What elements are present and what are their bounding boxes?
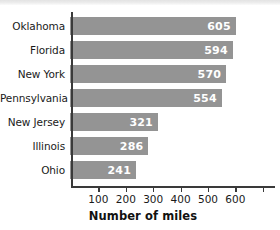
bar-track: 321	[70, 110, 280, 134]
bar-track: 570	[70, 62, 280, 86]
category-label: Ohio	[0, 164, 70, 176]
category-label: Pennsylvania	[0, 92, 70, 104]
x-axis-tick	[181, 187, 182, 192]
x-axis-tick	[98, 187, 99, 192]
category-label: New York	[0, 68, 70, 80]
bar-track: 286	[70, 134, 280, 158]
bar-value-label: 286	[120, 140, 149, 153]
bar-track: 605	[70, 14, 280, 38]
bar: 241	[70, 161, 136, 179]
y-axis-line	[71, 12, 73, 187]
bar-value-label: 321	[129, 116, 158, 129]
x-axis-line	[71, 186, 275, 188]
x-axis-tick	[208, 187, 209, 192]
bar-track: 554	[70, 86, 280, 110]
x-axis-title-label: Number of miles	[89, 209, 197, 223]
bar: 286	[70, 137, 148, 155]
x-axis-tick	[235, 187, 236, 192]
bar: 570	[70, 65, 226, 83]
x-axis-tick	[126, 187, 127, 192]
bar-value-label: 554	[193, 92, 222, 105]
bar-track: 241	[70, 158, 280, 182]
x-axis-tick-label: 500	[198, 193, 218, 205]
bar-chart: Oklahoma605Florida594New York570Pennsylv…	[0, 0, 280, 230]
x-axis-tick-label: 100	[88, 193, 108, 205]
bar-track: 594	[70, 38, 280, 62]
x-axis-tick-label: 400	[171, 193, 191, 205]
x-axis-tick-end	[263, 187, 264, 192]
bar-rows: Oklahoma605Florida594New York570Pennsylv…	[0, 14, 280, 182]
bar-row: Pennsylvania554	[0, 86, 280, 110]
plot-area: Oklahoma605Florida594New York570Pennsylv…	[0, 0, 280, 230]
x-axis-tick-label: 200	[116, 193, 136, 205]
bar-row: Florida594	[0, 38, 280, 62]
bar-row: Oklahoma605	[0, 14, 280, 38]
bar-value-label: 594	[204, 44, 233, 57]
x-axis-tick	[153, 187, 154, 192]
bar: 554	[70, 89, 222, 107]
x-axis-title: Number of miles	[0, 209, 280, 223]
bar-row: Ohio241	[0, 158, 280, 182]
bar-row: Illinois286	[0, 134, 280, 158]
bar-value-label: 570	[198, 68, 227, 81]
bar-row: New York570	[0, 62, 280, 86]
bar: 605	[70, 17, 236, 35]
x-axis-tick-label: 300	[143, 193, 163, 205]
x-axis-tick-label: 600	[225, 193, 245, 205]
category-label: New Jersey	[0, 116, 70, 128]
bar: 594	[70, 41, 233, 59]
bar: 321	[70, 113, 158, 131]
category-label: Oklahoma	[0, 20, 70, 32]
bar-row: New Jersey321	[0, 110, 280, 134]
bar-value-label: 241	[107, 164, 136, 177]
bar-value-label: 605	[207, 20, 236, 33]
category-label: Florida	[0, 44, 70, 56]
category-label: Illinois	[0, 140, 70, 152]
